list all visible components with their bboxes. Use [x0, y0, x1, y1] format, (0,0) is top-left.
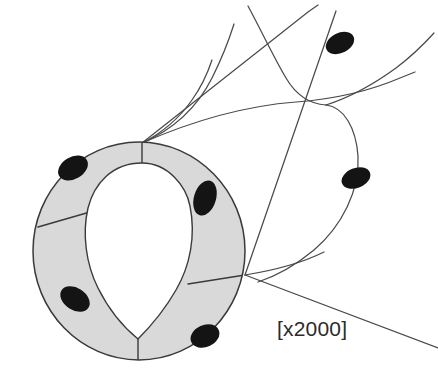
surface-nucleus-middle	[338, 163, 373, 193]
tube-ruling-line-top	[142, 5, 318, 143]
surface-cell-boundary-3	[248, 6, 326, 105]
tube-diagram	[0, 0, 438, 382]
surface-nuclei	[322, 27, 374, 192]
tube-wall-cross-section	[33, 142, 245, 360]
surface-cell-boundary-6	[245, 252, 324, 275]
figure-root: [x2000]	[0, 0, 438, 382]
magnification-label: [x2000]	[277, 317, 347, 341]
surface-nucleus-upper	[322, 27, 358, 58]
surface-cell-boundary-7	[142, 60, 212, 143]
